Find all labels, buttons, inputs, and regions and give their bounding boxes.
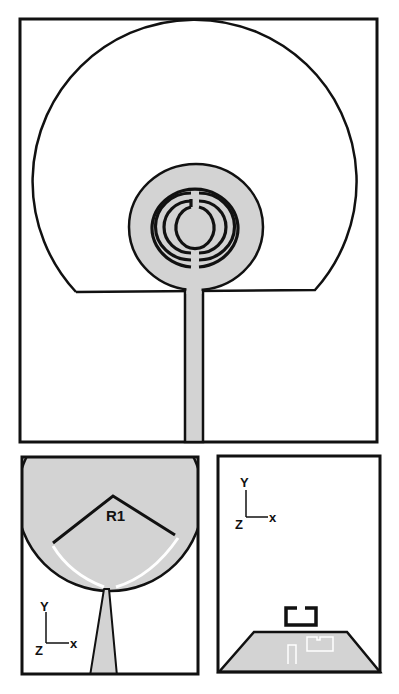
r1-label: R1 xyxy=(106,507,125,524)
axis-x-label: x xyxy=(70,636,78,651)
antenna-diagram: R1 Y x Z Y x Z xyxy=(0,0,399,694)
axis-z-label: Z xyxy=(235,517,243,532)
axis-y-label: Y xyxy=(40,599,49,614)
bottom-right-panel: Y x Z xyxy=(218,456,380,672)
feed-line xyxy=(185,285,203,442)
axis-x-label: x xyxy=(269,510,277,525)
axis-z-label: Z xyxy=(35,643,43,658)
top-panel xyxy=(20,19,377,442)
circular-patch xyxy=(129,164,263,290)
bottom-left-panel: R1 Y x Z xyxy=(17,405,203,676)
axis-y-label: Y xyxy=(240,475,249,490)
